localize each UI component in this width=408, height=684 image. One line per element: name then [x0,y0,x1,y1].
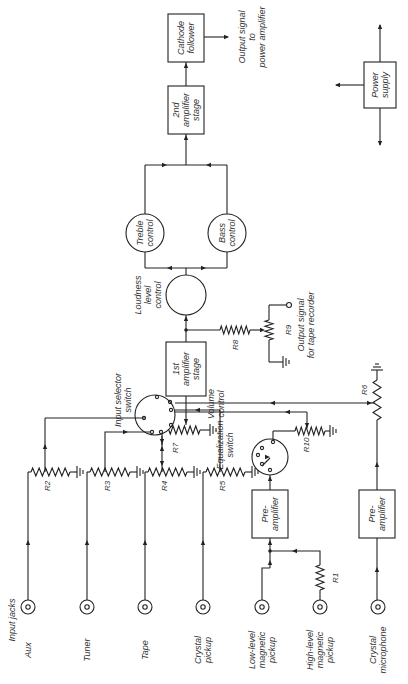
arrow-head [26,540,30,545]
arrow-head [160,461,164,466]
input-jack-label-4-line: Crystal [193,635,203,664]
input-jack-label-6: High-levelmagneticpickup [305,629,335,670]
resistor-r1 [316,565,324,590]
output-to-power-amp-label-line: power amplifier [257,5,267,68]
input-jack-label-5-line: magnetic [257,631,267,668]
r6-label: R6 [360,384,369,395]
preamplifier-microphone-label-line: Pre- [367,505,377,522]
preamplifier-microphone-label-line: amplifier [377,496,387,531]
arrow-head [184,316,188,321]
wire [262,568,270,600]
output-to-power-amp-label-line: Output signal [237,9,247,63]
preamplifier-magnetic-label-line: Pre- [260,505,270,522]
second-amplifier-label-line: 2nd [171,102,181,119]
audio-preamp-block-diagram: Cathodefollower2ndamplifierstageOutput s… [0,0,408,684]
input-jack-label-6-line: High-level [305,629,315,670]
power-supply-label: Powersupply [370,71,390,98]
arrow-head [85,540,89,545]
r10-label: R10 [302,437,311,452]
input-jack-label-1-line: Aux [23,642,33,659]
treble-control-label-line: Treble [135,221,145,246]
input-jack-7 [371,600,385,614]
input-jack-label-5-line: pickup [267,637,277,664]
r3-label-line: R3 [103,480,112,491]
r3-label: R3 [103,480,112,491]
r8-label-line: R8 [231,339,240,350]
arrow-head [160,446,164,451]
resistor-r6 [373,380,381,420]
preamplifier-magnetic-label-line: amplifier [270,496,280,531]
arrow-head [184,63,188,68]
input-selector-label: Input selectorswitch [113,372,133,427]
arrow-head [378,141,382,146]
arrow-head [184,419,188,424]
volume-control-label: Volumecontrol [206,389,226,419]
input-selector-label-line: switch [123,387,133,412]
cathode-follower-label-line: follower [186,21,196,53]
arrow-head [305,423,309,428]
output-to-power-amp-label: Output signaltopower amplifier [237,5,267,68]
cathode-follower-label: Cathodefollower [176,21,196,55]
resistor-r2 [31,468,70,476]
r5-label: R5 [218,480,227,491]
input-jack-label-2: Tuner [82,638,92,662]
arrow-head [184,135,188,140]
output-tape-label: Output signalfor tape recorder [296,291,316,359]
equalization-switch-label-line: switch [225,432,235,457]
input-jack-label-7-line: microphone [378,626,388,673]
arrow-head [268,540,272,545]
input-jack-2 [80,600,94,614]
input-jack-6 [313,600,327,614]
resistor-r3 [90,468,130,476]
input-jack-5 [255,600,269,614]
arrow-head [292,549,297,553]
treble-control-label: Treblecontrol [135,218,155,246]
r1-label-line: R1 [331,573,340,583]
arrow-head [43,444,47,449]
wire [270,551,320,565]
r2-label: R2 [43,480,52,491]
input-jack-label-6-line: pickup [325,637,335,664]
input-jack-label-4-line: pickup [203,637,213,664]
arrow-head [375,462,379,467]
input-jacks-heading-line: Input jacks [7,598,17,642]
arrow-head [367,401,372,405]
arrow-head [206,163,211,167]
loudness-label-line: control [153,280,163,308]
r8-label: R8 [231,339,240,350]
input-jack-4 [196,600,210,614]
arrow-head [285,410,290,414]
input-jack-label-2-line: Tuner [82,638,92,662]
r1-label: R1 [331,573,340,583]
input-jack-label-7: Crystalmicrophone [368,626,388,673]
arrow-head [167,266,172,270]
resistor-r10 [295,427,325,435]
input-jack-label-1: Aux [23,642,33,659]
r5-label-line: R5 [218,480,227,491]
r6-label-line: R6 [360,384,369,395]
cathode-follower-label-line: Cathode [176,21,186,55]
input-jack-1 [21,600,35,614]
arrow-head [123,430,128,434]
resistor-r9 [265,320,273,340]
bass-control-label-line: control [227,218,237,246]
arrow-head [201,540,205,545]
r9-label: R9 [284,324,293,335]
r4-label: R4 [160,480,169,491]
r10-label-line: R10 [302,437,311,452]
input-jack-label-3-line: Tape [140,640,150,660]
second-amplifier-label-line: stage [191,99,201,121]
input-jack-label-6-line: magnetic [315,631,325,668]
resistor-r8 [220,326,250,334]
arrow-head [143,540,147,545]
resistor-r4 [148,468,187,476]
r2-label-line: R2 [43,480,52,491]
treble-control-label-line: control [145,218,155,246]
power-supply-label-line: supply [380,71,390,98]
arrow-head [224,35,229,39]
first-amplifier-label-line: 1st [171,363,181,376]
r9-label-line: R9 [284,324,293,335]
power-supply-label-line: Power [370,71,380,98]
input-jack-label-4: Crystalpickup [193,635,213,664]
r4-label-line: R4 [160,480,169,491]
